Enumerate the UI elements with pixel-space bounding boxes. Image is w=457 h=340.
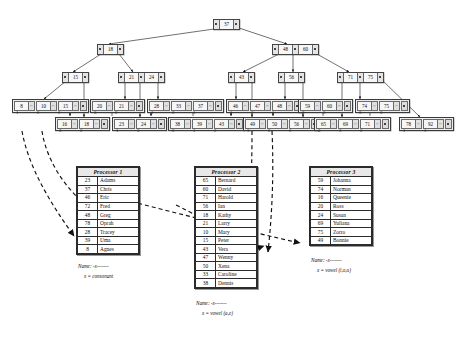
proc-key: 60 bbox=[196, 185, 216, 194]
tree-node-internal-71-75[interactable]: 71 75 bbox=[337, 72, 384, 83]
table-row: 39Uma bbox=[78, 236, 139, 245]
leaf-proc-label: 2 bbox=[251, 111, 253, 116]
proc-key: 23 bbox=[78, 177, 98, 186]
leaf-cell: 15□ bbox=[58, 101, 79, 111]
proc-name: Ross bbox=[331, 202, 372, 211]
table-row: 65Bernard bbox=[196, 177, 257, 186]
leaf-proc-label: 3 bbox=[359, 111, 361, 116]
processor-title: Processor 1 bbox=[78, 168, 139, 177]
processor-3-caption-line1: Name: -x------- bbox=[311, 257, 342, 264]
leaf-proc-label: 3 bbox=[59, 129, 61, 134]
table-row: 46Eric bbox=[78, 194, 139, 203]
leaf-cell-pointer: □ bbox=[393, 102, 399, 110]
leaf-cell-pointer: □ bbox=[336, 102, 342, 110]
processor-3-table[interactable]: Processor 3 59Johanna 74Norman 16Queenie… bbox=[309, 166, 373, 246]
proc-key: 69 bbox=[311, 219, 331, 228]
leaf-cell-pointer: □ bbox=[330, 120, 336, 128]
proc-key: 49 bbox=[311, 236, 331, 245]
leaf-cell-pointer: □ bbox=[128, 102, 134, 110]
node-pointer bbox=[279, 73, 285, 82]
proc-key: 18 bbox=[196, 211, 216, 220]
proc-name: Susan bbox=[331, 211, 372, 220]
tree-node-internal-15[interactable]: 15 bbox=[62, 72, 89, 83]
leaf-cell-pointer: □ bbox=[371, 102, 377, 110]
leaf-value: 71 bbox=[361, 120, 374, 128]
leaf-cell: 60□ bbox=[322, 101, 343, 111]
leaf-cell-pointer: □ bbox=[207, 102, 213, 110]
leaf-value: 33 bbox=[172, 102, 185, 110]
leaf-value: 60 bbox=[323, 102, 336, 110]
table-row: 47Wenny bbox=[196, 253, 257, 262]
processor-1-caption-line2: x = consonant bbox=[84, 273, 113, 280]
processor-2-table[interactable]: Processor 2 65Bernard 60David 71Harold 5… bbox=[194, 166, 258, 289]
table-row: 21Larry bbox=[196, 219, 257, 228]
leaf-value: 43 bbox=[215, 120, 228, 128]
tree-node-internal-48-60[interactable]: 48 60 bbox=[272, 44, 319, 55]
proc-name: Zorro bbox=[331, 228, 372, 237]
leaf-cell-pointer: □ bbox=[106, 102, 112, 110]
node-key: 24 bbox=[145, 73, 159, 82]
processor-title: Processor 2 bbox=[196, 168, 257, 177]
leaf-cell: 71□ bbox=[360, 119, 381, 129]
leaf-node[interactable]: 65□ 69□ 71□ bbox=[314, 117, 391, 131]
leaf-cell: 10□ bbox=[36, 101, 57, 111]
proc-key: 24 bbox=[311, 211, 331, 220]
proc-name: Bonnie bbox=[331, 236, 372, 245]
processor-1-table[interactable]: Processor 1 23Adams 37Chris 46Eric 72Fre… bbox=[76, 166, 140, 255]
table-row: 33Caroline bbox=[196, 270, 257, 279]
leaf-cell-pointer: □ bbox=[50, 102, 56, 110]
processor-2-caption-line1: Name: -x------- bbox=[196, 300, 227, 307]
leaf-proc-label: 2 bbox=[172, 111, 174, 116]
leaf-value: 46 bbox=[229, 102, 242, 110]
leaf-proc-label: 1 bbox=[230, 111, 232, 116]
tree-node-root[interactable]: 37 bbox=[213, 19, 240, 30]
proc-name: Adams bbox=[98, 177, 139, 186]
proc-name: Greg bbox=[98, 211, 139, 220]
leaf-cell-pointer: □ bbox=[184, 120, 190, 128]
leaf-cell-pointer: □ bbox=[163, 102, 169, 110]
leaf-value: 78 bbox=[402, 120, 415, 128]
leaf-next-pointer bbox=[215, 101, 222, 111]
tree-node-internal-21-24[interactable]: 21 24 bbox=[118, 72, 165, 83]
proc-name: Wenny bbox=[216, 253, 257, 262]
table-row: 16Queenie bbox=[311, 194, 372, 203]
proc-name: Caroline bbox=[216, 270, 257, 279]
table-row: 48Greg bbox=[78, 211, 139, 220]
leaf-value: 39 bbox=[193, 120, 206, 128]
leaf-cell: 43□ bbox=[214, 119, 235, 129]
leaf-cell: 92□ bbox=[423, 119, 444, 129]
leaf-proc-label: 3 bbox=[302, 111, 304, 116]
leaf-node[interactable]: 8□ 10□ 15□ bbox=[12, 99, 89, 113]
leaf-next-pointer bbox=[445, 119, 452, 129]
table-row: 59Johanna bbox=[311, 177, 372, 186]
leaf-node[interactable]: 38□ 39□ 43□ bbox=[168, 117, 245, 131]
table-row: 60David bbox=[196, 185, 257, 194]
leaf-proc-label: 2 bbox=[323, 111, 325, 116]
node-pointer bbox=[358, 73, 364, 82]
leaf-proc-label: 1 bbox=[424, 129, 426, 134]
leaf-next-pointer bbox=[158, 119, 165, 129]
table-row: 18Kathy bbox=[196, 211, 257, 220]
leaf-value: 49 bbox=[246, 120, 259, 128]
node-pointer bbox=[119, 73, 125, 82]
leaf-proc-label: 1 bbox=[116, 129, 118, 134]
leaf-cell-pointer: □ bbox=[352, 120, 358, 128]
leaf-next-pointer bbox=[236, 119, 243, 129]
leaf-value: 56 bbox=[290, 120, 303, 128]
leaf-cell-pointer: □ bbox=[228, 120, 234, 128]
node-pointer bbox=[83, 73, 88, 82]
leaf-next-pointer bbox=[344, 101, 351, 111]
leaf-proc-label: 2 bbox=[115, 111, 117, 116]
leaf-cell-pointer: □ bbox=[259, 120, 265, 128]
tree-node-internal-18[interactable]: 18 bbox=[97, 44, 124, 55]
leaf-node[interactable]: 28□ 33□ 37□ bbox=[147, 99, 224, 113]
tree-node-internal-56[interactable]: 56 bbox=[278, 72, 305, 83]
leaf-node[interactable]: 49□ 50□ 56□ bbox=[243, 117, 320, 131]
tree-node-internal-43[interactable]: 43 bbox=[228, 72, 255, 83]
leaf-node[interactable]: 46□ 47□ 48□ bbox=[226, 99, 303, 113]
proc-key: 75 bbox=[311, 228, 331, 237]
table-row: 49Bonnie bbox=[311, 236, 372, 245]
leaf-next-pointer bbox=[80, 101, 87, 111]
node-pointer bbox=[139, 73, 145, 82]
leaf-cell: 18□ bbox=[79, 119, 100, 129]
